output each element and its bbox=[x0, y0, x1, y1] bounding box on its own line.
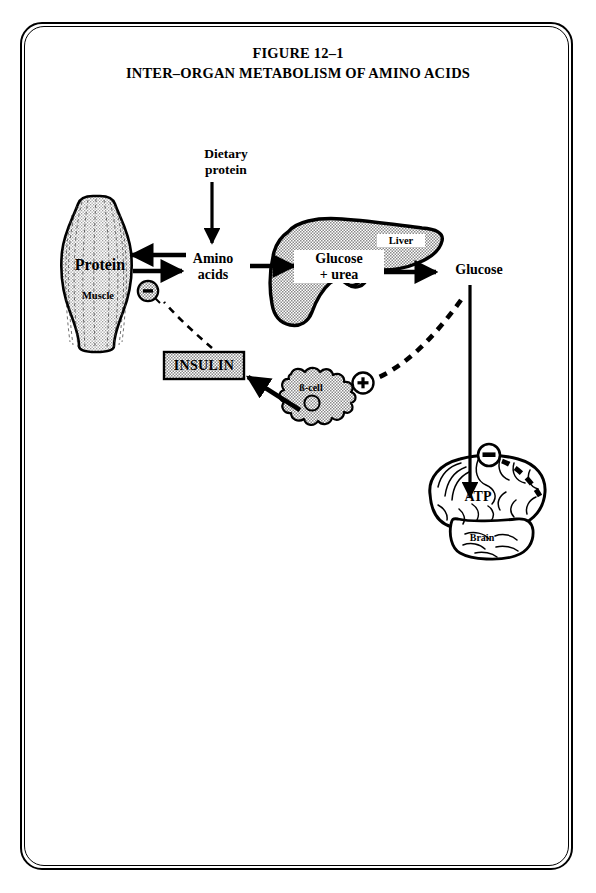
label-beta-cell: ß-cell bbox=[288, 382, 334, 393]
dietary-protein-line1: Dietary bbox=[204, 146, 247, 161]
metabolism-diagram bbox=[0, 0, 596, 893]
amino-acids-line2: acids bbox=[198, 267, 228, 282]
muscle-shape bbox=[61, 196, 131, 352]
minus-sign-brain bbox=[478, 444, 500, 466]
label-liver: Liver bbox=[377, 234, 425, 247]
dashed-insulin-to-minus bbox=[164, 302, 212, 348]
label-glucose-urea: Glucose + urea bbox=[294, 250, 384, 283]
label-dietary-protein: Dietary protein bbox=[174, 146, 278, 177]
glucose-urea-line2: + urea bbox=[320, 267, 358, 282]
label-brain: Brain bbox=[459, 532, 505, 543]
amino-acids-line1: Amino bbox=[193, 251, 233, 266]
beta-cell-nucleus bbox=[304, 395, 319, 410]
plus-sign-bcell bbox=[353, 373, 374, 394]
beta-cell-organ bbox=[280, 368, 356, 425]
dashed-glucose-to-plus bbox=[370, 300, 461, 381]
minus-sign-muscle bbox=[138, 281, 160, 303]
figure-number: FIGURE 12–1 bbox=[0, 44, 596, 63]
brain-organ bbox=[430, 455, 545, 559]
label-atp: ATP bbox=[458, 489, 498, 505]
dietary-protein-line2: protein bbox=[205, 162, 247, 177]
label-protein: Protein bbox=[55, 256, 145, 274]
glucose-urea-line1: Glucose bbox=[315, 251, 362, 266]
figure-title-block: FIGURE 12–1 INTER–ORGAN METABOLISM OF AM… bbox=[0, 44, 596, 84]
label-amino-acids: Amino acids bbox=[178, 251, 248, 282]
figure-caption: INTER–ORGAN METABOLISM OF AMINO ACIDS bbox=[0, 63, 596, 84]
label-muscle: Muscle bbox=[62, 290, 134, 301]
figure-page: FIGURE 12–1 INTER–ORGAN METABOLISM OF AM… bbox=[0, 0, 596, 893]
label-insulin: INSULIN bbox=[170, 358, 238, 374]
label-glucose-right: Glucose bbox=[441, 262, 517, 278]
muscle-organ bbox=[61, 196, 131, 352]
